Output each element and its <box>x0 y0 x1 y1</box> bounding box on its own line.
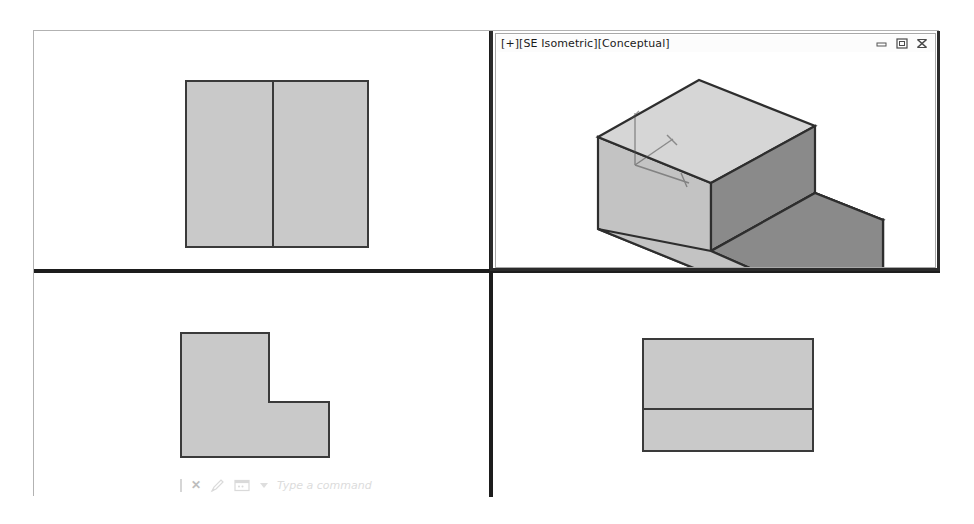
ucs-icon <box>629 109 709 189</box>
front-view-l-profile <box>181 333 329 457</box>
command-input[interactable]: Type a command <box>277 479 372 492</box>
application-frame: [+][SE Isometric][Conceptual] <box>33 30 939 496</box>
viewport-front-view[interactable] <box>34 273 489 497</box>
front-view-drawing <box>179 305 409 485</box>
command-line[interactable]: ✕ Type a command <box>180 474 500 496</box>
pen-icon[interactable] <box>210 478 225 493</box>
minimize-icon[interactable] <box>876 38 888 49</box>
viewport-divider-vertical[interactable] <box>489 31 493 497</box>
window-controls <box>876 38 934 49</box>
close-icon[interactable] <box>916 38 928 49</box>
viewport-isometric-view[interactable] <box>493 31 940 269</box>
side-view-outline <box>643 339 813 451</box>
viewport-grid: [+][SE Isometric][Conceptual] <box>34 31 938 495</box>
command-history-icon[interactable] <box>234 478 251 492</box>
viewport-top-view[interactable] <box>34 31 489 269</box>
viewport-label[interactable]: [+][SE Isometric][Conceptual] <box>497 37 670 50</box>
caret-icon <box>180 479 182 492</box>
top-view-drawing <box>184 79 404 269</box>
close-icon[interactable]: ✕ <box>191 478 201 492</box>
dropdown-arrow-icon[interactable] <box>260 481 268 489</box>
viewport-divider-horizontal[interactable] <box>34 269 940 273</box>
viewport-title-bar: [+][SE Isometric][Conceptual] <box>497 35 934 52</box>
top-view-outline <box>186 81 368 247</box>
restore-icon[interactable] <box>896 38 908 49</box>
side-view-drawing <box>641 311 871 491</box>
viewport-side-view[interactable] <box>493 273 940 497</box>
